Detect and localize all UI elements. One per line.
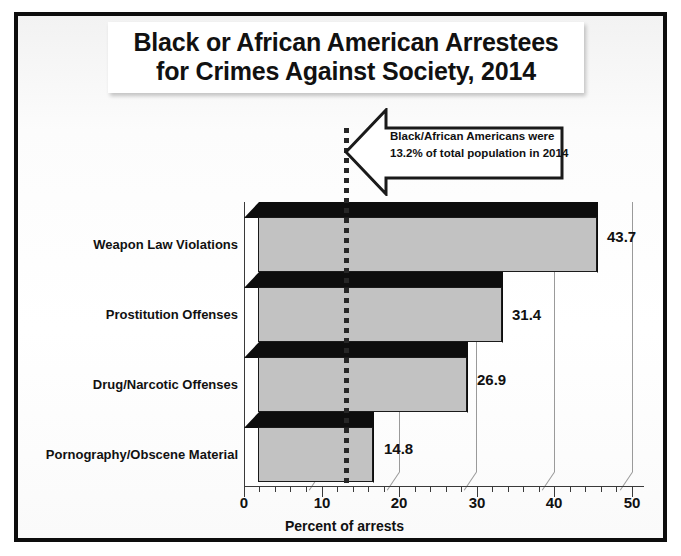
bar-top-face bbox=[244, 412, 374, 428]
bar-front-face bbox=[258, 217, 597, 272]
figure-frame: Black or African American Arrestees for … bbox=[14, 12, 667, 542]
x-tick-label-40: 40 bbox=[534, 494, 574, 511]
x-axis-line bbox=[244, 486, 644, 487]
bar-front-face bbox=[258, 427, 373, 482]
gridline-foot-40 bbox=[542, 472, 555, 491]
category-label-prostitution-offenses: Prostitution Offenses bbox=[24, 307, 238, 322]
callout-text-line-2: 13.2% of total population in 2014 bbox=[390, 145, 588, 162]
x-tick-minor bbox=[259, 486, 260, 492]
x-tick-label-30: 30 bbox=[457, 494, 497, 511]
x-tick-minor bbox=[275, 486, 276, 492]
x-tick-minor bbox=[337, 486, 338, 492]
category-label-pornography-obscene-material: Pornography/Obscene Material bbox=[18, 447, 238, 462]
x-tick-minor bbox=[430, 486, 431, 492]
bar-front-face bbox=[258, 287, 502, 342]
x-tick-minor bbox=[415, 486, 416, 492]
gridline-foot-50 bbox=[620, 472, 633, 491]
x-tick-minor bbox=[446, 486, 447, 492]
chart-figure: Black or African American Arrestees for … bbox=[0, 0, 681, 556]
x-tick-minor bbox=[508, 486, 509, 492]
x-tick-label-50: 50 bbox=[612, 494, 652, 511]
x-tick-minor bbox=[570, 486, 571, 492]
x-axis-title: Percent of arrests bbox=[18, 518, 671, 534]
category-label-drug-narcotic-offenses: Drug/Narcotic Offenses bbox=[24, 377, 238, 392]
x-tick-minor bbox=[384, 486, 385, 492]
x-tick-minor bbox=[585, 486, 586, 492]
category-label-weapon-law-violations: Weapon Law Violations bbox=[24, 237, 238, 252]
x-tick-minor bbox=[306, 486, 307, 492]
x-tick-label-0: 0 bbox=[224, 494, 264, 511]
bar-value-weapon-law-violations: 43.7 bbox=[607, 228, 636, 245]
x-tick-minor bbox=[290, 486, 291, 492]
x-tick-minor bbox=[523, 486, 524, 492]
x-tick-label-20: 20 bbox=[379, 494, 419, 511]
bar-top-face bbox=[244, 342, 468, 358]
x-tick-minor bbox=[492, 486, 493, 492]
x-tick-minor bbox=[616, 486, 617, 492]
callout-text: Black/African Americans were 13.2% of to… bbox=[390, 128, 588, 161]
bar-top-face bbox=[244, 202, 598, 218]
bar-front-face bbox=[258, 357, 467, 412]
x-tick-minor bbox=[539, 486, 540, 492]
bar-value-drug-narcotic-offenses: 26.9 bbox=[477, 371, 506, 388]
x-tick-minor bbox=[368, 486, 369, 492]
plot-area: 43.7 31.4 26.9 14.8 W bbox=[18, 16, 671, 538]
callout-text-line-1: Black/African Americans were bbox=[390, 128, 588, 145]
axis-wall bbox=[244, 202, 259, 486]
gridline-foot-20 bbox=[387, 472, 400, 491]
x-tick-label-10: 10 bbox=[302, 494, 342, 511]
gridline-foot-30 bbox=[464, 472, 477, 491]
x-tick-minor bbox=[353, 486, 354, 492]
bar-top-face bbox=[244, 272, 503, 288]
bar-value-prostitution-offenses: 31.4 bbox=[512, 306, 541, 323]
x-tick-minor bbox=[601, 486, 602, 492]
x-tick-minor bbox=[461, 486, 462, 492]
bar-value-pornography-obscene-material: 14.8 bbox=[384, 440, 413, 457]
